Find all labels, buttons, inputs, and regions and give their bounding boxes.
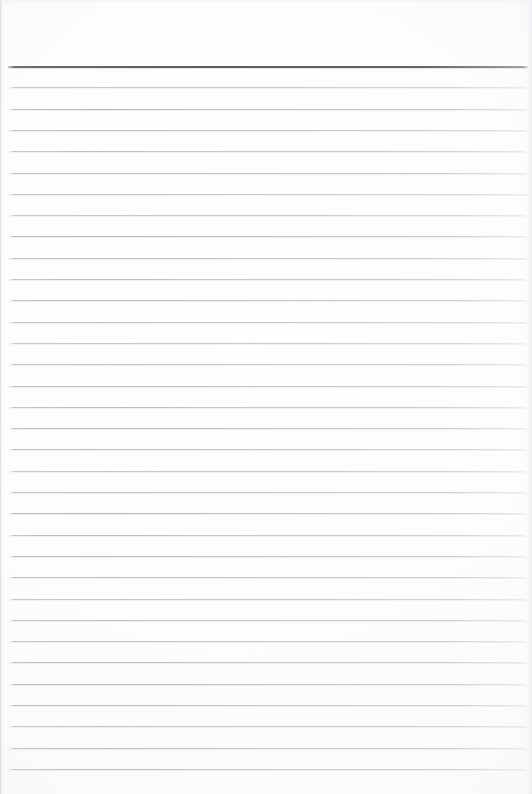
ruled-line (9, 620, 527, 621)
ruled-line (9, 471, 527, 472)
ruled-line (9, 109, 527, 110)
ruled-line (9, 641, 527, 642)
ruled-line (9, 748, 527, 749)
ruled-line (9, 300, 527, 301)
ruled-line (9, 386, 527, 387)
ruled-line (9, 769, 527, 770)
ruled-line (9, 258, 527, 259)
scan-edge-left (0, 0, 3, 794)
ruled-line (9, 194, 527, 195)
scan-edge-top (0, 0, 532, 4)
ruled-line (9, 173, 527, 174)
ruled-line (9, 236, 527, 237)
ruled-line (9, 364, 527, 365)
ruled-line (9, 130, 527, 131)
ruled-line (9, 87, 527, 88)
ruled-line (9, 279, 527, 280)
scan-edge-right (526, 0, 532, 794)
ruled-lines-layer (0, 0, 532, 794)
header-rule (8, 66, 528, 68)
ruled-line (9, 726, 527, 727)
ruled-line (9, 343, 527, 344)
ruled-line (9, 684, 527, 685)
scanned-page (0, 0, 532, 794)
ruled-line (9, 535, 527, 536)
ruled-line (9, 556, 527, 557)
ruled-line (9, 492, 527, 493)
ruled-line (9, 215, 527, 216)
ruled-line (9, 599, 527, 600)
ruled-line (9, 662, 527, 663)
ruled-line (9, 449, 527, 450)
ruled-line (9, 513, 527, 514)
ruled-line (9, 151, 527, 152)
ruled-line (9, 428, 527, 429)
ruled-line (9, 577, 527, 578)
ruled-line (9, 322, 527, 323)
ruled-line (9, 407, 527, 408)
ruled-line (9, 705, 527, 706)
